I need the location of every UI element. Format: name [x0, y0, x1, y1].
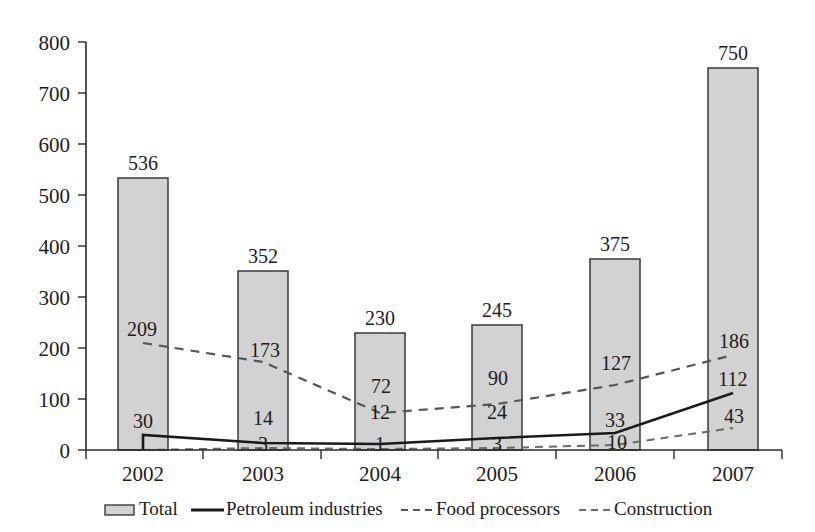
food-processors-value-labels: 209 173 72 90 127 186 — [127, 318, 749, 397]
construction-line[interactable] — [143, 428, 733, 450]
legend-item-construction[interactable]: Construction — [579, 498, 713, 519]
food-label-2007: 186 — [719, 330, 749, 352]
x-tick-label-2007: 2007 — [712, 462, 754, 486]
petroleum-label-2006: 33 — [605, 409, 625, 431]
bar-label-2007: 750 — [718, 42, 748, 64]
y-tick-label-600: 600 — [39, 133, 71, 157]
x-axis: 2002 2003 2004 2005 2006 2007 — [86, 450, 782, 486]
legend-label-construction: Construction — [614, 498, 713, 519]
y-tick-label-300: 300 — [39, 286, 71, 310]
bar-total-2007[interactable] — [708, 68, 758, 450]
bars-total-series — [118, 68, 758, 450]
y-tick-label-0: 0 — [60, 439, 71, 463]
bar-label-2002: 536 — [128, 152, 158, 174]
y-axis: 800 700 600 500 400 300 200 100 0 — [39, 31, 87, 463]
food-label-2002: 209 — [127, 318, 157, 340]
series-petroleum-industries — [143, 393, 733, 450]
petroleum-value-labels: 30 14 12 24 33 112 — [133, 368, 748, 432]
chart-figure: 800 700 600 500 400 300 200 100 0 536 35… — [0, 0, 815, 532]
series-food-processors — [143, 343, 733, 413]
legend-item-total[interactable]: Total — [105, 498, 178, 519]
petroleum-label-2003: 14 — [253, 407, 273, 429]
construction-label-2005: 3 — [492, 433, 502, 455]
construction-label-2004: 1 — [375, 433, 385, 455]
construction-label-2003: 3 — [258, 433, 268, 455]
x-tick-label-2006: 2006 — [594, 462, 636, 486]
y-tick-label-800: 800 — [39, 31, 71, 55]
chart-legend: Total Petroleum industries Food processo… — [105, 498, 713, 519]
bar-label-2005: 245 — [482, 299, 512, 321]
y-tick-label-400: 400 — [39, 235, 71, 259]
construction-label-2007: 43 — [724, 405, 744, 427]
y-tick-label-200: 200 — [39, 337, 71, 361]
legend-bar-swatch-icon — [105, 505, 134, 515]
legend-item-food-processors[interactable]: Food processors — [401, 498, 560, 519]
bar-value-labels: 536 352 230 245 375 750 — [128, 42, 748, 329]
bar-line-combo-chart: 800 700 600 500 400 300 200 100 0 536 35… — [0, 0, 815, 532]
legend-label-total: Total — [139, 498, 178, 519]
petroleum-label-2005: 24 — [487, 401, 507, 423]
bar-label-2003: 352 — [248, 245, 278, 267]
petroleum-label-2004: 12 — [370, 401, 390, 423]
x-tick-label-2003: 2003 — [242, 462, 284, 486]
y-tick-label-500: 500 — [39, 184, 71, 208]
legend-label-food-processors: Food processors — [436, 498, 560, 519]
y-tick-label-700: 700 — [39, 82, 71, 106]
legend-item-petroleum-industries[interactable]: Petroleum industries — [191, 498, 383, 519]
petroleum-label-2007: 112 — [718, 368, 747, 390]
petroleum-label-2002: 30 — [133, 410, 153, 432]
food-label-2003: 173 — [250, 339, 280, 361]
x-tick-label-2004: 2004 — [359, 462, 402, 486]
petroleum-industries-line[interactable] — [143, 393, 733, 450]
food-label-2005: 90 — [488, 367, 508, 389]
food-label-2006: 127 — [601, 352, 631, 374]
bar-label-2006: 375 — [600, 233, 630, 255]
series-construction — [143, 428, 733, 450]
x-tick-label-2005: 2005 — [476, 462, 518, 486]
food-processors-line[interactable] — [143, 343, 733, 413]
food-label-2004: 72 — [371, 375, 391, 397]
bar-label-2004: 230 — [365, 307, 395, 329]
y-tick-label-100: 100 — [39, 388, 71, 412]
legend-label-petroleum-industries: Petroleum industries — [226, 498, 383, 519]
x-tick-label-2002: 2002 — [122, 462, 164, 486]
